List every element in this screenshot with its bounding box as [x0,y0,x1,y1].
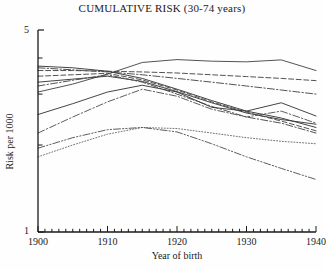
y-axis-label: Risk per 1000 [4,87,15,197]
x-axis-tick-label: 1940 [306,236,326,247]
x-axis-tick-label: 1910 [98,236,118,247]
series-group [38,60,316,180]
y-axis-label-wrap: Risk per 1000 [0,92,18,202]
line-chart-svg [38,30,316,232]
x-axis-tick-label: 1930 [237,236,257,247]
x-axis-tick-label: 1900 [28,236,48,247]
series-line-series-11 [38,127,316,179]
plot-area [38,30,316,232]
x-axis-label: Year of birth [38,250,316,261]
series-line-series-1 [38,60,316,92]
y-axis-tick-label-bottom: 1 [24,225,29,236]
chart-title: CUMULATIVE RISK (30-74 years) [0,2,324,14]
x-axis-tick-label: 1920 [167,236,187,247]
series-line-series-7 [38,75,316,133]
series-line-series-9 [38,89,316,133]
y-axis-tick-label-top: 5 [24,24,29,35]
